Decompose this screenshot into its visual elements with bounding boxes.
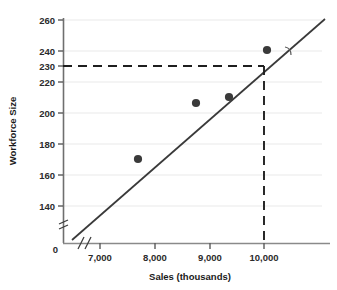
y-axis-title: Workforce Size xyxy=(7,97,18,165)
y-tick-label-220: 220 xyxy=(39,77,55,88)
data-point-4 xyxy=(263,46,271,54)
data-point-1 xyxy=(134,155,142,163)
y-tick-label-260: 260 xyxy=(39,15,55,26)
x-tick-label-9000: 9,000 xyxy=(198,252,222,263)
y-tick-label-180: 180 xyxy=(39,139,55,150)
y-tick-label-160: 160 xyxy=(39,170,55,181)
x-tick-label-7000: 7,000 xyxy=(88,252,112,263)
y-tick-label-230: 230 xyxy=(39,61,55,72)
x-axis-title: Sales (thousands) xyxy=(149,271,231,282)
x-tick-label-8000: 8,000 xyxy=(143,252,167,263)
y-tick-label-200: 200 xyxy=(39,108,55,119)
data-point-2 xyxy=(192,99,200,107)
origin-label: 0 xyxy=(53,244,58,255)
scatter-plot-chart: 260 240 230 220 200 180 160 140 0 7,000 … xyxy=(0,0,337,290)
y-tick-label-240: 240 xyxy=(39,46,55,57)
data-point-3 xyxy=(225,93,233,101)
chart-svg: 260 240 230 220 200 180 160 140 0 7,000 … xyxy=(0,0,337,290)
x-tick-label-10000: 10,000 xyxy=(249,252,278,263)
y-tick-label-140: 140 xyxy=(39,201,55,212)
